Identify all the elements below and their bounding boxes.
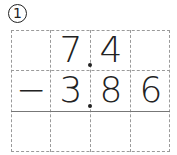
answer-cell[interactable] [51, 111, 91, 151]
minuend-digit [131, 30, 171, 70]
minuend-digit: 7 [51, 30, 91, 70]
subtrahend-digit: 8 [91, 70, 131, 110]
subtrahend-digit: 3 [51, 70, 91, 110]
minus-operator: − [11, 70, 51, 110]
problem-number-badge: 1 [8, 4, 27, 23]
subtraction-grid: 7 4 − 3 8 6 [11, 30, 170, 152]
decimal-point [88, 104, 92, 108]
decimal-point [88, 63, 92, 67]
minuend-digit [11, 30, 51, 70]
grid-line [11, 151, 170, 152]
answer-cell[interactable] [131, 111, 171, 151]
subtrahend-digit: 6 [131, 70, 171, 110]
minuend-digit: 4 [91, 30, 131, 70]
answer-cell[interactable] [11, 111, 51, 151]
answer-cell[interactable] [91, 111, 131, 151]
